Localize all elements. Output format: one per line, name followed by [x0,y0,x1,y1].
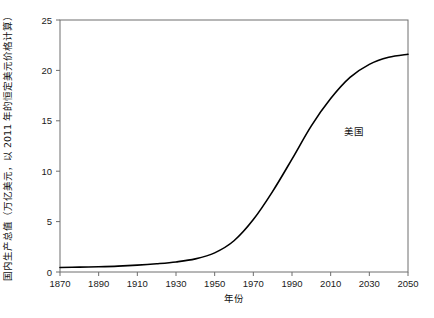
chart-figure: 1870189019101930195019701990201020302050… [0,0,434,318]
x-tick-label: 2050 [397,278,418,289]
series-annotation-group: 美国 [344,126,364,137]
x-tick-label: 1930 [165,278,186,289]
y-tick-label: 0 [47,267,52,278]
x-tick-label: 1970 [243,278,264,289]
gdp-s-curve-chart: 1870189019101930195019701990201020302050… [0,0,434,318]
y-axis: 0510152025 [41,15,60,278]
y-tick-label: 5 [47,216,52,227]
x-tick-label: 1890 [88,278,109,289]
y-tick-label: 10 [41,166,52,177]
y-tick-label: 25 [41,15,52,26]
x-tick-label: 1910 [127,278,148,289]
y-axis-title: 国内生产总值（万亿美元，以 2011 年的恒定美元价格计算） [2,11,13,281]
x-tick-label: 2010 [320,278,341,289]
series-annotation-label: 美国 [344,126,364,137]
x-tick-label: 2030 [359,278,380,289]
x-axis-title: 年份 [224,293,244,304]
x-tick-label: 1990 [281,278,302,289]
y-tick-label: 20 [41,65,52,76]
x-tick-label: 1870 [49,278,70,289]
x-axis: 1870189019101930195019701990201020302050 [49,272,418,289]
y-tick-label: 15 [41,115,52,126]
x-tick-label: 1950 [204,278,225,289]
plot-area-background [60,20,408,272]
